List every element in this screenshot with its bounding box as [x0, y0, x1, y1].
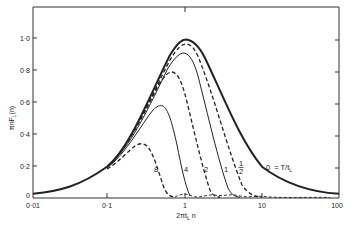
x-tick-10: 10 — [258, 202, 266, 209]
y-tick-labels: 1·0 0·8 0·6 0·4 0·2 0 — [20, 35, 30, 200]
x-tick-labels: 0·01 0·1 1 10 100 — [26, 202, 343, 209]
y-tick-0-4: 0·4 — [20, 131, 30, 138]
curve-t8 — [107, 144, 175, 197]
label-half: 1 2 — [239, 159, 244, 176]
y-tick-0: 0 — [26, 192, 30, 199]
curve-t2 — [107, 72, 220, 197]
x-tick-0-1: 0·1 — [102, 202, 112, 209]
x-tick-0-01: 0·01 — [26, 202, 40, 209]
svg-text:2: 2 — [239, 167, 243, 176]
x-axis-title: 2πtL n — [176, 212, 195, 221]
chart: 1·0 0·8 0·6 0·4 0·2 0 0·01 0·1 1 10 100 … — [0, 0, 350, 226]
label-2: 2 — [204, 165, 208, 174]
curve-t4 — [107, 106, 190, 196]
y-tick-0-6: 0·6 — [20, 99, 30, 106]
x-tick-100: 100 — [331, 202, 343, 209]
y-tick-1-0: 1·0 — [20, 35, 30, 42]
label-4: 4 — [184, 165, 188, 174]
label-1: 1 — [224, 165, 228, 174]
y-tick-0-8: 0·8 — [20, 67, 30, 74]
label-0: 0= T/tL — [266, 163, 292, 173]
label-8: 8 — [154, 165, 158, 174]
curve-t1 — [107, 53, 240, 197]
x-tick-1: 1 — [183, 202, 187, 209]
y-axis-title: πnFL(n) — [8, 106, 17, 130]
curve-tails — [175, 194, 330, 197]
y-tick-0-2: 0·2 — [20, 163, 30, 170]
